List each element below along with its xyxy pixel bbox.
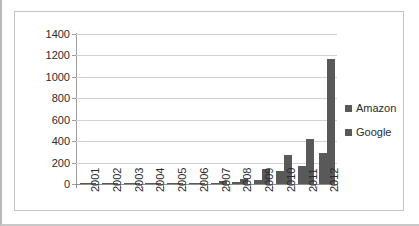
gridline-400 xyxy=(76,141,337,142)
legend-label-amazon: Amazon xyxy=(356,102,396,114)
x-tick-mark-0 xyxy=(76,184,77,188)
chart-object-frame: 1400 1200 1000 800 600 400 200 0 xyxy=(14,11,404,211)
y-axis-label-1400: 1400 xyxy=(24,29,70,40)
legend-swatch-google xyxy=(345,129,352,136)
x-axis-label-2003: 2003 xyxy=(134,168,145,192)
y-axis-label-200: 200 xyxy=(24,158,70,169)
x-axis-label-2004: 2004 xyxy=(155,168,166,192)
legend-item-amazon[interactable]: Amazon xyxy=(345,102,415,114)
y-axis-label-1200: 1200 xyxy=(24,50,70,61)
x-axis-label-2007: 2007 xyxy=(221,168,232,192)
chart-legend: Amazon Google xyxy=(345,102,415,150)
x-axis-label-2008: 2008 xyxy=(242,168,253,192)
gridline-200 xyxy=(76,163,337,164)
x-axis-label-2011: 2011 xyxy=(308,168,319,192)
y-axis-label-0: 0 xyxy=(24,179,70,190)
x-axis-label-2002: 2002 xyxy=(112,168,123,192)
plot-area xyxy=(76,34,337,184)
bar-amazon-2011[interactable] xyxy=(298,166,306,184)
gridline-600 xyxy=(76,120,337,121)
x-axis-label-2005: 2005 xyxy=(177,168,188,192)
x-axis-label-2001: 2001 xyxy=(90,168,101,192)
bar-google-2012[interactable] xyxy=(327,59,335,184)
y-axis-label-400: 400 xyxy=(24,136,70,147)
x-axis-label-2009: 2009 xyxy=(264,168,275,192)
x-axis-label-2010: 2010 xyxy=(286,168,297,192)
x-axis-label-2006: 2006 xyxy=(199,168,210,192)
legend-swatch-amazon xyxy=(345,105,352,112)
legend-label-google: Google xyxy=(356,126,391,138)
y-axis-label-800: 800 xyxy=(24,93,70,104)
gridline-1200 xyxy=(76,55,337,56)
x-axis-label-2012: 2012 xyxy=(329,168,340,192)
chart-screenshot: 1400 1200 1000 800 600 400 200 0 xyxy=(0,0,419,226)
y-axis-label-600: 600 xyxy=(24,115,70,126)
y-axis-labels: 1400 1200 1000 800 600 400 200 0 xyxy=(20,12,70,212)
legend-item-google[interactable]: Google xyxy=(345,126,415,138)
gridline-1000 xyxy=(76,77,337,78)
bar-amazon-2012[interactable] xyxy=(319,153,327,184)
y-axis-label-1000: 1000 xyxy=(24,72,70,83)
gridline-1400 xyxy=(76,34,337,35)
bar-amazon-2010[interactable] xyxy=(276,171,284,184)
gridline-800 xyxy=(76,98,337,99)
